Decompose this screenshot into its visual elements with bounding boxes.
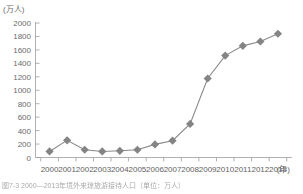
line-chart: 0200400600800100012001400160018002000 20… (0, 0, 303, 180)
x-axis-tick-marks (41, 158, 287, 162)
data-point-marker (81, 146, 89, 154)
x-axis-tick-label: 2000 (41, 165, 59, 174)
data-point-marker (45, 147, 53, 155)
x-axis-tick-labels: 2000200120022003200420052006200720082009… (41, 165, 288, 174)
x-axis-tick-label: 2004 (111, 165, 129, 174)
y-axis-tick-label: 1200 (13, 73, 31, 82)
series-line-path (50, 34, 278, 152)
x-axis-tick-label: 2006 (146, 165, 164, 174)
y-axis-tick-label: 800 (18, 100, 32, 109)
figure-container: (万人) 02004006008001000120014001600180020… (0, 0, 303, 194)
data-point-marker (98, 147, 106, 155)
y-axis-tick-labels: 0200400600800100012001400160018002000 (13, 19, 31, 163)
x-axis-tick-label: 2001 (58, 165, 76, 174)
y-axis-tick-label: 1800 (13, 32, 31, 41)
data-point-marker (151, 140, 159, 148)
y-axis-tick-label: 1400 (13, 59, 31, 68)
x-axis-tick-label: 2012 (251, 165, 269, 174)
data-point-marker (63, 136, 71, 144)
y-axis-tick-label: 1000 (13, 86, 31, 95)
x-axis-tick-label: 2007 (164, 165, 182, 174)
x-axis-suffix-label: (年) (277, 164, 291, 174)
y-axis-tick-label: 0 (27, 154, 32, 163)
data-point-marker (116, 147, 124, 155)
x-axis-tick-label: 2011 (234, 165, 252, 174)
y-axis-tick-marks (36, 23, 40, 158)
data-point-marker (133, 146, 141, 154)
y-axis-tick-label: 600 (18, 113, 32, 122)
x-axis-tick-label: 2003 (93, 165, 111, 174)
x-axis-tick-label: 2010 (216, 165, 234, 174)
data-point-marker (274, 30, 282, 38)
y-axis-tick-label: 400 (18, 127, 32, 136)
y-axis-tick-label: 1600 (13, 46, 31, 55)
x-axis-tick-label: 2002 (76, 165, 94, 174)
x-axis-tick-label: 2009 (199, 165, 217, 174)
x-axis-tick-label: 2005 (128, 165, 146, 174)
x-axis-tick-label: 2008 (181, 165, 199, 174)
data-point-marker (239, 42, 247, 50)
y-axis-tick-label: 200 (18, 140, 32, 149)
data-point-marker (256, 37, 264, 45)
figure-caption: 图7-3 2000—2013年境外来琼旅游接待人口（单位：万人） (2, 181, 302, 190)
y-axis-tick-label: 2000 (13, 19, 31, 28)
series-markers (45, 30, 282, 156)
